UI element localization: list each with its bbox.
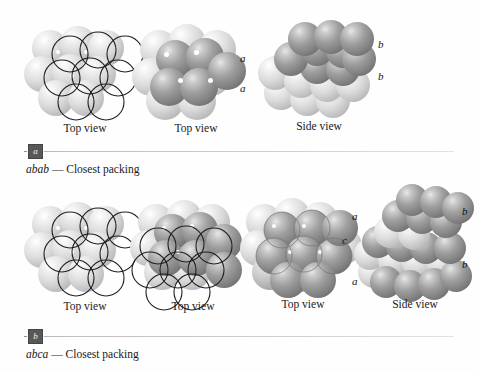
section-a-caption: abab — Closest packing xyxy=(26,163,139,175)
layer-label-b-left-2: c xyxy=(342,234,347,246)
sphere-stage-top-two-layer-outline-b xyxy=(132,196,254,296)
section-b-caption-dash: — xyxy=(48,348,65,360)
section-b-panel-4: Side view xyxy=(352,182,478,296)
panel-caption: Top view xyxy=(136,122,256,134)
layer-label-b-left-1: a xyxy=(352,210,358,222)
section-a-divider xyxy=(24,151,454,152)
outline-circles-overlay xyxy=(132,196,254,296)
panel-caption: Top view xyxy=(26,300,144,312)
sphere-stage-top-two-layer-a xyxy=(136,22,256,118)
section-a-panel-3: Side view xyxy=(248,20,388,120)
section-a-panel-2: Top view xyxy=(136,22,256,118)
section-b-badge: b xyxy=(28,329,43,344)
section-a-caption-dash: — xyxy=(49,163,66,175)
layer-label-a-right-1: b xyxy=(378,38,384,50)
packing-figure: Top view Top view xyxy=(0,0,479,372)
section-a-caption-italic: abab xyxy=(26,163,49,175)
outline-circles-overlay xyxy=(26,196,144,296)
sphere-stage-side-abca xyxy=(352,182,478,296)
layer-label-b-left-3: a xyxy=(352,275,358,287)
outline-circles-overlay xyxy=(26,22,144,118)
layer-label-b-right-1: b xyxy=(462,205,468,217)
sphere-stage-top-outline-b xyxy=(26,196,144,296)
panel-caption: Top view xyxy=(26,122,144,134)
section-b-caption: abca — Closest packing xyxy=(26,348,139,360)
section-b-panel-2: Top view xyxy=(132,196,254,296)
section-b-caption-rest: Closest packing xyxy=(66,348,139,360)
section-a-caption-rest: Closest packing xyxy=(66,163,139,175)
panel-caption: Side view xyxy=(352,298,478,310)
section-b-panel-1: Top view xyxy=(26,196,144,296)
panel-caption: Top view xyxy=(132,300,254,312)
section-a-badge: a xyxy=(28,144,43,159)
layer-label-a-left-1: a xyxy=(240,52,246,64)
section-b-divider xyxy=(24,336,454,337)
panel-caption: Top view xyxy=(242,298,364,310)
layer-label-b-right-2: b xyxy=(462,258,468,270)
section-a-panel-1: Top view xyxy=(26,22,144,118)
sphere-stage-side-abab xyxy=(248,20,388,120)
panel-caption: Side view xyxy=(254,120,384,132)
layer-label-a-right-2: b xyxy=(378,70,384,82)
sphere-stage-top-outline-a xyxy=(26,22,144,118)
layer-label-a-left-2: a xyxy=(240,82,246,94)
section-b-caption-italic: abca xyxy=(26,348,48,360)
